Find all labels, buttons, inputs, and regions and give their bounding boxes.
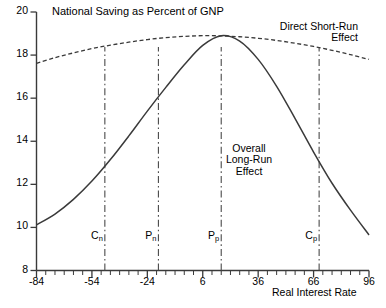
y-tick-label: 8 (4, 264, 28, 275)
marker-label-cn: Cn (83, 230, 103, 241)
x-tick-label: 6 (183, 276, 223, 287)
y-tick-label: 20 (4, 5, 28, 16)
y-axis-ticks (31, 12, 37, 271)
y-tick-label: 10 (4, 220, 28, 231)
marker-label-cp: Cp (297, 230, 317, 241)
annotation-direct-short-run-effect: Direct Short-RunEffect (238, 21, 358, 44)
chart-plot-area (0, 0, 386, 308)
y-tick-label: 14 (4, 134, 28, 145)
marker-label-pn: Pn (136, 230, 156, 241)
annotation-line: Effect (331, 31, 358, 43)
y-tick-label: 12 (4, 177, 28, 188)
annotation-line: Overall (232, 142, 265, 154)
x-axis-title: Real Interest Rate (272, 287, 357, 298)
x-tick-label: -84 (17, 276, 57, 287)
chart-title: National Saving as Percent of GNP (52, 6, 224, 18)
annotation-line: Long-Run (226, 153, 272, 165)
annotation-line: Direct Short-Run (280, 20, 358, 32)
chart-container: National Saving as Percent of GNP 201816… (0, 0, 386, 308)
annotation-overall-long-run-effect: OverallLong-RunEffect (212, 143, 286, 177)
y-tick-label: 18 (4, 48, 28, 59)
marker-label-pp: Pp (199, 230, 219, 241)
x-tick-label: -54 (72, 276, 112, 287)
x-tick-label: -24 (127, 276, 167, 287)
annotation-line: Effect (236, 165, 263, 177)
y-tick-label: 16 (4, 91, 28, 102)
